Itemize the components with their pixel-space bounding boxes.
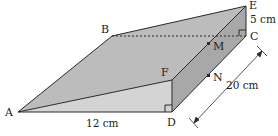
label-M: M (213, 40, 224, 53)
label-D: D (167, 116, 176, 129)
label-E: E (249, 0, 257, 12)
point-M (207, 42, 210, 45)
dimension-label-EC: 5 cm (250, 13, 276, 25)
label-F: F (161, 66, 169, 79)
point-N (207, 74, 210, 77)
label-A: A (4, 106, 14, 119)
label-B: B (101, 23, 109, 36)
arrowhead-upper-icon (257, 51, 262, 57)
label-N: N (213, 71, 223, 84)
dimension-label-AD: 12 cm (86, 117, 119, 129)
label-C: C (250, 30, 258, 43)
prism-diagram: A B E C F D M N 12 cm 5 cm 20 cm (0, 0, 278, 136)
dimension-label-CD: 20 cm (226, 79, 259, 91)
arrowhead-lower-icon (194, 117, 199, 123)
